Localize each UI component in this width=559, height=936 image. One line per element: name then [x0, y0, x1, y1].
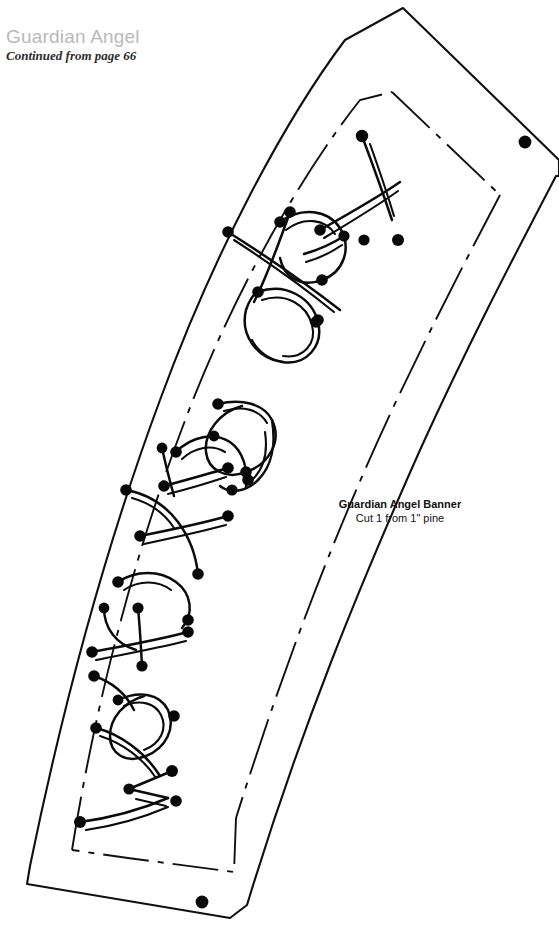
letter-a: [88, 670, 180, 759]
letter-r: [314, 130, 404, 246]
inner-border-dashed: [392, 92, 500, 195]
outer-cut-outline: [27, 8, 559, 918]
banner-pattern-drawing: [0, 0, 559, 936]
drill-point: [196, 896, 209, 909]
drill-point: [519, 136, 532, 149]
pattern-page: Guardian Angel Continued from page 66 Gu…: [0, 0, 559, 936]
letter-h: [120, 484, 234, 580]
letter-c: [99, 573, 194, 650]
inner-border-dashed: [72, 818, 236, 872]
